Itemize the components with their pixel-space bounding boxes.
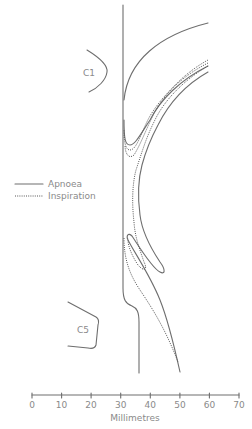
x-tick-70: 70 <box>233 400 244 410</box>
airway-diagram: C1 C5 Apnoea Inspiration 0 10 20 30 40 5… <box>0 0 252 429</box>
legend-apnoea-label: Apnoea <box>48 179 82 189</box>
legend-inspiration-label: Inspiration <box>48 191 96 201</box>
x-tick-50: 50 <box>174 400 185 410</box>
x-tick-10: 10 <box>56 400 67 410</box>
x-tick-30: 30 <box>115 400 126 410</box>
x-axis-title: Millimetres <box>110 413 159 423</box>
c5-label: C5 <box>77 325 89 335</box>
upper-outer-curve <box>124 23 208 100</box>
x-tick-20: 20 <box>85 400 96 410</box>
posterior-wall-line <box>123 5 139 373</box>
apnoea-airway-contour <box>124 66 208 372</box>
c1-label: C1 <box>83 68 95 78</box>
x-tick-60: 60 <box>204 400 215 410</box>
x-tick-0: 0 <box>29 400 35 410</box>
x-tick-40: 40 <box>145 400 156 410</box>
diagram-canvas <box>0 0 252 429</box>
